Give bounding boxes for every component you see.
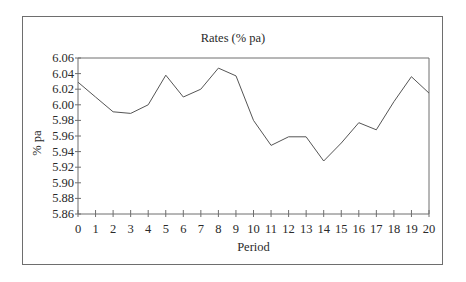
svg-text:5.90: 5.90 xyxy=(52,176,74,190)
svg-text:5.86: 5.86 xyxy=(52,207,74,221)
line-chart: 5.865.885.905.925.945.965.986.006.026.04… xyxy=(0,0,466,282)
svg-text:1: 1 xyxy=(92,222,98,236)
svg-text:3: 3 xyxy=(128,222,134,236)
svg-text:10: 10 xyxy=(247,222,260,236)
svg-text:15: 15 xyxy=(335,222,348,236)
svg-text:9: 9 xyxy=(233,222,239,236)
svg-text:5.94: 5.94 xyxy=(52,145,75,159)
svg-text:4: 4 xyxy=(145,222,152,236)
svg-text:19: 19 xyxy=(405,222,418,236)
svg-text:6: 6 xyxy=(180,222,186,236)
svg-text:18: 18 xyxy=(388,222,401,236)
svg-text:2: 2 xyxy=(110,222,116,236)
svg-text:13: 13 xyxy=(300,222,313,236)
svg-text:17: 17 xyxy=(370,222,383,236)
svg-text:6.00: 6.00 xyxy=(52,98,74,112)
y-axis-ticks: 5.865.885.905.925.945.965.986.006.026.04… xyxy=(52,51,81,221)
svg-text:8: 8 xyxy=(215,222,221,236)
svg-text:20: 20 xyxy=(423,222,436,236)
svg-text:7: 7 xyxy=(198,222,204,236)
svg-text:6.04: 6.04 xyxy=(52,67,75,81)
svg-text:14: 14 xyxy=(317,222,330,236)
svg-text:5.92: 5.92 xyxy=(52,160,74,174)
svg-text:5.88: 5.88 xyxy=(52,191,74,205)
svg-text:5: 5 xyxy=(163,222,169,236)
svg-text:12: 12 xyxy=(282,222,295,236)
svg-text:0: 0 xyxy=(75,222,81,236)
svg-text:5.96: 5.96 xyxy=(52,129,74,143)
svg-text:6.02: 6.02 xyxy=(52,82,74,96)
svg-text:6.06: 6.06 xyxy=(52,51,74,65)
rates-series-line xyxy=(78,68,429,161)
plot-axes xyxy=(78,58,429,214)
svg-text:11: 11 xyxy=(265,222,277,236)
svg-text:5.98: 5.98 xyxy=(52,113,74,127)
svg-text:16: 16 xyxy=(353,222,366,236)
